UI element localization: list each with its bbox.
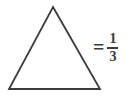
triangle-outline [9, 7, 100, 89]
equation-group: = 1 3 [93, 31, 118, 65]
fraction-numerator: 1 [109, 32, 116, 46]
figure-canvas: = 1 3 [0, 0, 134, 96]
fraction-denominator: 3 [109, 50, 116, 64]
equals-sign: = [93, 37, 104, 57]
fraction-one-third: 1 3 [107, 32, 118, 65]
